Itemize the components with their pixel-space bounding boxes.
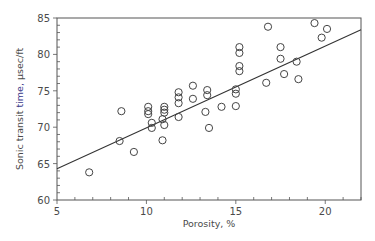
data-point [236, 49, 243, 56]
data-point [189, 95, 196, 102]
data-point [175, 100, 182, 107]
data-points [86, 19, 331, 175]
y-axis-label-part2: time, [14, 83, 25, 107]
data-point [295, 76, 302, 83]
data-point [130, 148, 137, 155]
x-tick-label: 15 [229, 206, 242, 217]
data-point [189, 82, 196, 89]
data-point [218, 103, 225, 110]
data-point [175, 113, 182, 120]
y-tick-label: 70 [37, 122, 50, 133]
data-point [148, 124, 155, 131]
x-tick-label: 5 [54, 206, 60, 217]
regression-line [57, 30, 361, 169]
data-point [204, 92, 211, 99]
x-axis-label: Porosity, % [183, 218, 236, 229]
data-point [311, 19, 318, 26]
y-tick-label: 75 [37, 86, 50, 97]
y-axis-label: Sonic transit time, µsec/ft [14, 48, 25, 171]
scatter-chart: 606570758085 5101520 Porosity, % Sonic t… [0, 0, 375, 241]
x-tick-label: 10 [140, 206, 153, 217]
data-point [232, 90, 239, 97]
y-tick-label: 60 [37, 195, 50, 206]
data-point [159, 137, 166, 144]
plot-border [57, 18, 361, 200]
data-point [263, 79, 270, 86]
data-point [236, 68, 243, 75]
y-axis-label-part1: Sonic transit [14, 108, 25, 171]
plot-frame [57, 18, 361, 200]
data-point [277, 55, 284, 62]
y-tick-label: 85 [37, 13, 50, 24]
data-point [264, 23, 271, 30]
fit-line [57, 30, 361, 169]
data-point [232, 102, 239, 109]
data-point [202, 108, 209, 115]
data-point [293, 58, 300, 65]
data-point [86, 169, 93, 176]
data-point [205, 124, 212, 131]
data-point [116, 137, 123, 144]
data-point [277, 44, 284, 51]
y-axis-label-part3: µsec/ft [14, 48, 25, 83]
data-point [118, 108, 125, 115]
x-tick-label: 20 [319, 206, 332, 217]
y-tick-label: 65 [37, 159, 50, 170]
data-point [161, 121, 168, 128]
data-point [318, 34, 325, 41]
data-point [281, 70, 288, 77]
data-point [145, 110, 152, 117]
y-tick-label: 80 [37, 49, 50, 60]
data-point [323, 25, 330, 32]
